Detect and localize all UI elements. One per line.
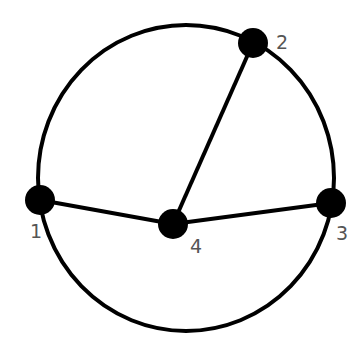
edge-3-4 <box>173 203 331 224</box>
node-label-3: 3 <box>336 222 348 244</box>
node-3 <box>316 188 346 218</box>
node-1 <box>25 185 55 215</box>
node-label-1: 1 <box>30 220 42 242</box>
node-label-2: 2 <box>276 31 288 53</box>
node-4 <box>158 209 188 239</box>
node-label-4: 4 <box>190 235 202 257</box>
edge-1-4 <box>40 200 173 224</box>
node-2 <box>238 28 268 58</box>
outer-circle-edges <box>38 25 334 331</box>
edge-2-4 <box>173 43 253 224</box>
graph-diagram: 1234 <box>0 0 364 357</box>
